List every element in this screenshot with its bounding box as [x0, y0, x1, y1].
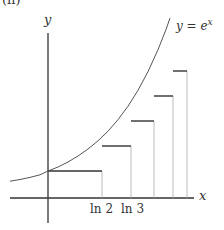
curve-label: y = ex [176, 17, 213, 33]
exponential-curve-main [10, 18, 170, 181]
rectangle-sides [102, 71, 187, 198]
curve-label-exponent: x [208, 17, 213, 27]
exponential-diagram [0, 0, 224, 230]
tick-label-ln3: ln 3 [121, 202, 144, 216]
x-axis-label: x [199, 188, 206, 203]
y-axis-label: y [44, 12, 51, 27]
part-label: (ii) [2, 0, 20, 7]
curve-label-base: y = e [176, 19, 208, 33]
tick-label-ln2: ln 2 [90, 202, 113, 216]
